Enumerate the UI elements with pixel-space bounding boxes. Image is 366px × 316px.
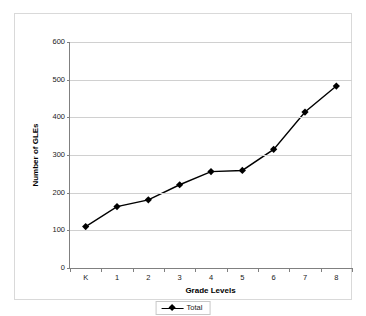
x-tick-label: 7 [303, 274, 307, 282]
y-tick-mark [67, 80, 70, 81]
chart-frame: Number of GLEs 0100200300400500600K12345… [14, 13, 352, 300]
gridline-y [70, 117, 352, 118]
legend-marker-icon [162, 304, 184, 312]
y-tick-label: 300 [52, 151, 65, 159]
y-tick-mark [67, 42, 70, 43]
chart-legend: Total [156, 301, 211, 315]
y-tick-mark [67, 193, 70, 194]
gridline-y [70, 42, 352, 43]
x-tick-mark [227, 268, 228, 272]
data-point-marker [113, 203, 120, 210]
x-tick-mark [258, 268, 259, 272]
y-tick-mark [67, 117, 70, 118]
x-tick-mark [195, 268, 196, 272]
x-tick-label: 3 [178, 274, 182, 282]
y-tick-label: 500 [52, 76, 65, 84]
gridline-y [70, 230, 352, 231]
y-tick-label: 600 [52, 38, 65, 46]
gridline-y [70, 80, 352, 81]
y-tick-label: 0 [61, 264, 65, 272]
y-tick-label: 400 [52, 114, 65, 122]
x-tick-label: 4 [209, 274, 213, 282]
x-tick-label: K [83, 274, 88, 282]
x-tick-mark [70, 268, 71, 272]
y-tick-label: 200 [52, 189, 65, 197]
data-point-marker [207, 168, 214, 175]
legend-item-total: Total [187, 304, 203, 312]
plot-area: 0100200300400500600K12345678 [69, 42, 352, 269]
y-tick-mark [67, 155, 70, 156]
x-tick-mark [101, 268, 102, 272]
gridline-y [70, 155, 352, 156]
x-tick-label: 5 [240, 274, 244, 282]
x-tick-label: 2 [146, 274, 150, 282]
x-tick-label: 8 [334, 274, 338, 282]
x-tick-mark [352, 268, 353, 272]
y-axis-title: Number of GLEs [31, 123, 40, 186]
gridline-y [70, 193, 352, 194]
x-tick-mark [321, 268, 322, 272]
data-point-marker [82, 223, 89, 230]
x-tick-label: 6 [272, 274, 276, 282]
x-tick-mark [164, 268, 165, 272]
x-tick-mark [133, 268, 134, 272]
data-point-marker [176, 181, 183, 188]
chart-container: Number of GLEs 0100200300400500600K12345… [0, 0, 366, 316]
x-tick-label: 1 [115, 274, 119, 282]
y-tick-label: 100 [52, 227, 65, 235]
x-tick-mark [289, 268, 290, 272]
x-axis-title: Grade Levels [69, 286, 352, 295]
data-point-marker [145, 196, 152, 203]
series-line [86, 86, 337, 226]
y-tick-mark [67, 230, 70, 231]
